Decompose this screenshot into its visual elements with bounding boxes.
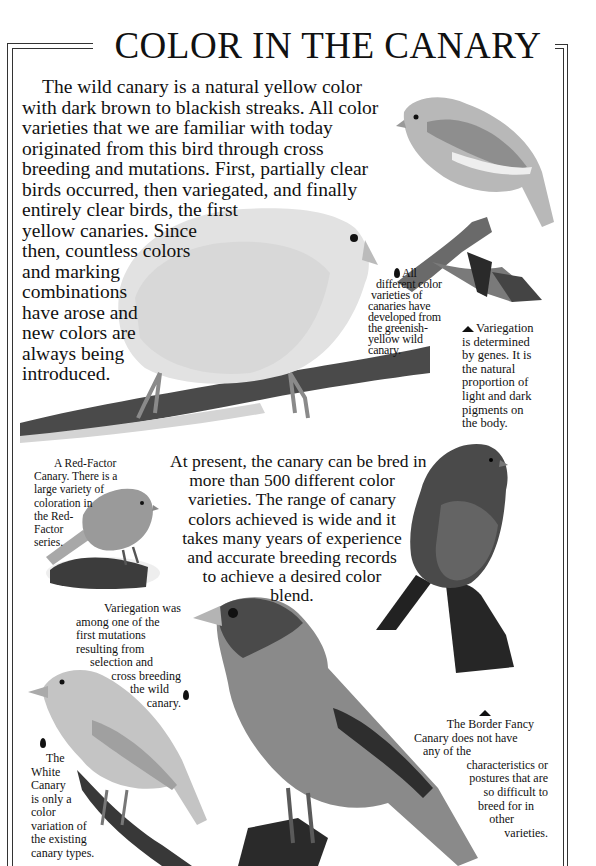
middle-line: more than 500 different color	[170, 471, 414, 490]
intro-line: birds occurred, then variegated, and fin…	[22, 180, 378, 201]
intro-line: varieties that we are familiar with toda…	[22, 118, 378, 139]
middle-paragraph: At present, the canary can be bred in mo…	[170, 452, 414, 606]
caption-line: Canary	[31, 779, 94, 793]
caption-line: resulting from	[76, 643, 181, 657]
middle-line: takes many years of experience	[170, 529, 414, 548]
caption-line: series.	[34, 536, 117, 549]
caption-line: among one of the	[76, 616, 181, 630]
intro-line: The wild canary is a natural yellow colo…	[22, 77, 378, 98]
frame-left-inner	[12, 48, 13, 866]
caption-line: The	[31, 752, 94, 766]
leaf-bullet-icon	[479, 710, 491, 716]
caption-line: proportion of	[462, 376, 534, 390]
middle-line: colors achieved is wide and it	[170, 510, 414, 529]
intro-line: always being	[22, 344, 378, 365]
intro-line: new colors are	[22, 323, 378, 344]
caption-line: the natural	[462, 363, 534, 377]
caption-line: light and dark	[462, 390, 534, 404]
intro-line: with dark brown to blackish streaks. All…	[22, 98, 378, 119]
intro-line: breeding and mutations. First, partially…	[22, 159, 378, 180]
intro-line: yellow canaries. Since	[22, 221, 378, 242]
caption-line: first mutations	[76, 629, 181, 643]
frame-right-outer	[567, 44, 568, 866]
page-title: COLOR IN THE CANARY	[98, 24, 558, 68]
middle-line: At present, the canary can be bred in	[170, 452, 414, 471]
intro-line: combinations	[22, 282, 378, 303]
intro-line: and marking	[22, 262, 378, 283]
middle-line: to achieve a desired color	[170, 567, 414, 586]
caption-white-canary: The White Canary is only a color variati…	[31, 752, 94, 860]
caption-line: pigments on	[462, 404, 534, 418]
caption-line: varieties.	[414, 827, 548, 841]
caption-line: Canary. There is a	[34, 470, 117, 483]
caption-line: large variety of	[34, 483, 117, 496]
caption-line: the wild	[76, 683, 181, 697]
leaf-bullet-icon	[40, 738, 46, 748]
intro-line: introduced.	[22, 364, 378, 385]
caption-line: so difficult to	[414, 786, 548, 800]
caption-line: breed for in	[414, 800, 548, 814]
caption-line: Factor	[34, 523, 117, 536]
middle-line: blend.	[170, 586, 414, 605]
frame-left-outer	[7, 43, 8, 866]
caption-line: selection and	[76, 656, 181, 670]
caption-line: the Red-	[34, 510, 117, 523]
caption-line: Variegation was	[76, 602, 181, 616]
caption-line: by genes. It is	[462, 349, 534, 363]
intro-line: have arose and	[22, 303, 378, 324]
intro-paragraph: The wild canary is a natural yellow colo…	[22, 77, 378, 385]
caption-line: A Red-Factor	[34, 457, 117, 470]
caption-line: is only a	[31, 793, 94, 807]
caption-red-factor: A Red-Factor Canary. There is a large va…	[34, 457, 117, 549]
caption-variegation-genes: Variegation is determined by genes. It i…	[462, 322, 534, 431]
intro-line: originated from this bird through cross	[22, 139, 378, 160]
caption-line: canary types.	[31, 847, 94, 861]
caption-line: Canary does not have	[414, 732, 548, 746]
caption-line: canary.	[368, 345, 442, 356]
caption-line: the body.	[462, 417, 534, 431]
frame-top-left-inner	[12, 48, 93, 49]
frame-right-inner	[563, 48, 564, 866]
caption-line: is determined	[462, 336, 534, 350]
caption-all-varieties: All different color varieties of canarie…	[368, 268, 442, 356]
caption-line: any of the	[414, 745, 548, 759]
caption-line: the existing	[31, 833, 94, 847]
middle-line: and accurate breeding records	[170, 548, 414, 567]
caption-variegation-mutation: Variegation was among one of the first m…	[76, 602, 181, 710]
caption-line: Variegation	[476, 321, 534, 335]
caption-line: characteristics or	[414, 759, 548, 773]
leaf-bullet-icon	[183, 690, 189, 700]
caption-border-fancy: The Border Fancy Canary does not have an…	[414, 718, 548, 840]
intro-line: entirely clear birds, the first	[22, 200, 378, 221]
caption-line: other	[414, 813, 548, 827]
caption-line: canary.	[76, 697, 181, 711]
caption-line: color	[31, 806, 94, 820]
caption-line: coloration in	[34, 497, 117, 510]
caption-line: cross breeding	[76, 670, 181, 684]
middle-line: varieties. The range of canary	[170, 490, 414, 509]
caption-line: The Border Fancy	[414, 718, 548, 732]
leaf-bullet-icon	[462, 326, 474, 332]
caption-line: variation of	[31, 820, 94, 834]
caption-line: White	[31, 766, 94, 780]
caption-line: postures that are	[414, 772, 548, 786]
frame-top-left-outer	[7, 43, 93, 44]
intro-line: then, countless colors	[22, 241, 378, 262]
